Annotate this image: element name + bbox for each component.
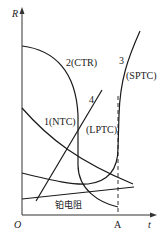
y-axis-label: R [11,8,18,19]
curve-sptc [22,31,140,184]
label-3: 3 [119,55,124,66]
resistance-temperature-diagram: R O A t 2(CTR) 3 (SPTC) 4 (LPTC) 1(NTC) … [0,0,165,239]
label-platinum: 铂电阻 [55,199,82,210]
label-4: 4 [89,94,94,105]
x-axis-label: t [148,219,151,230]
curve-platinum [22,187,134,199]
x-mark-label-a: A [114,219,122,230]
label-lptc: (LPTC) [86,124,117,136]
origin-label: O [14,219,21,230]
label-ctr: 2(CTR) [66,57,97,69]
y-axis-arrow-icon [20,7,25,14]
x-axis-arrow-icon [150,213,157,218]
label-sptc: (SPTC) [126,70,157,82]
label-ntc: 1(NTC) [44,116,76,128]
curve-lptc [36,90,102,201]
